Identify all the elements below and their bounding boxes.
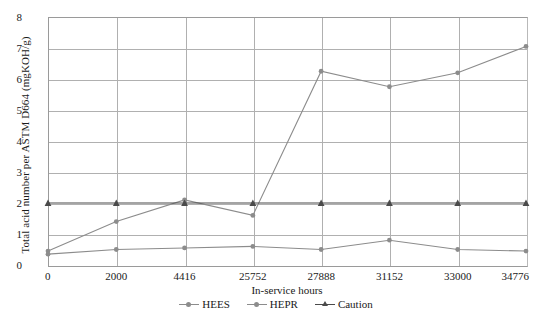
gridline-horizontal xyxy=(49,111,527,112)
x-tick-label: 27888 xyxy=(291,270,351,282)
legend-label-caution: Caution xyxy=(338,298,373,310)
gridline-vertical xyxy=(186,18,187,266)
x-tick-label: 34776 xyxy=(469,270,529,282)
legend-marker-caution xyxy=(315,300,335,309)
y-tick-label: 0 xyxy=(0,260,22,271)
gridline-horizontal xyxy=(49,80,527,81)
legend-marker-hepr xyxy=(247,300,267,309)
x-tick-label: 31152 xyxy=(359,270,419,282)
legend-item-caution[interactable]: Caution xyxy=(315,298,373,310)
gridline-vertical xyxy=(390,18,391,266)
y-tick-label: 6 xyxy=(0,74,22,85)
y-tick-label: 4 xyxy=(0,136,22,147)
legend-item-hees[interactable]: HEES xyxy=(179,298,230,310)
gridline-horizontal xyxy=(49,173,527,174)
x-tick-label: 25752 xyxy=(223,270,283,282)
chart-container: Total acid number per ASTM D664 (mgKOH/g… xyxy=(0,0,552,321)
plot-area xyxy=(48,17,528,267)
y-tick-label: 5 xyxy=(0,105,22,116)
gridline-vertical xyxy=(117,18,118,266)
y-tick-label: 3 xyxy=(0,167,22,178)
gridline-vertical xyxy=(459,18,460,266)
legend-marker-hees xyxy=(179,300,199,309)
y-tick-label: 1 xyxy=(0,229,22,240)
gridline-horizontal xyxy=(49,49,527,50)
y-tick-label: 8 xyxy=(0,12,22,23)
gridline-horizontal xyxy=(49,235,527,236)
x-tick-label: 2000 xyxy=(86,270,146,282)
legend-item-hepr[interactable]: HEPR xyxy=(247,298,298,310)
gridline-vertical xyxy=(322,18,323,266)
x-tick-label: 0 xyxy=(45,270,75,282)
gridline-vertical xyxy=(254,18,255,266)
gridline-horizontal xyxy=(49,204,527,205)
y-tick-label: 2 xyxy=(0,198,22,209)
legend-label-hees: HEES xyxy=(202,298,230,310)
chart-legend: HEES HEPR Caution xyxy=(0,298,552,310)
x-axis-title: In-service hours xyxy=(48,284,526,297)
y-tick-label: 7 xyxy=(0,43,22,54)
x-tick-label: 4416 xyxy=(155,270,215,282)
legend-label-hepr: HEPR xyxy=(270,298,298,310)
gridline-horizontal xyxy=(49,142,527,143)
